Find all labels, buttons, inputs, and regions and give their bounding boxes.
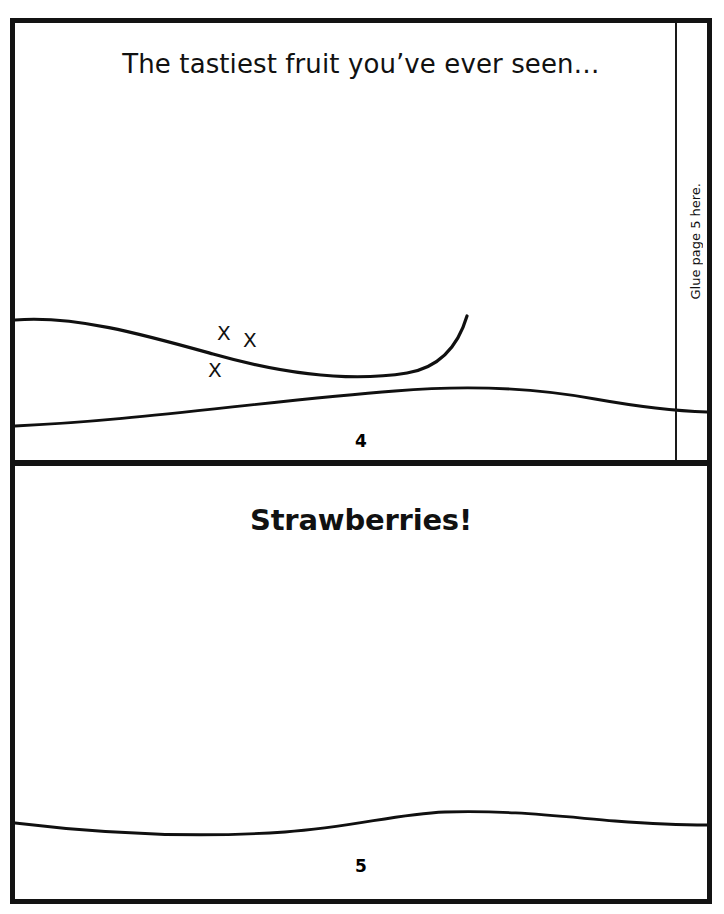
glue-instruction: Glue page 5 here. <box>679 23 707 460</box>
page-5-headline: Strawberries! <box>15 503 707 537</box>
page-number-4: 4 <box>15 431 707 451</box>
x-mark: X <box>243 330 257 350</box>
page-4-scenery-drawing <box>15 23 707 460</box>
page-4-headline: The tastiest fruit you’ve ever seen… <box>15 49 707 79</box>
glue-flap-fold-line <box>675 23 677 460</box>
x-mark: X <box>208 360 222 380</box>
clipped-header-text <box>430 0 720 7</box>
x-mark: X <box>217 323 231 343</box>
page-4-panel: The tastiest fruit you’ve ever seen… X X… <box>15 23 707 460</box>
booklet-frame: The tastiest fruit you’ve ever seen… X X… <box>10 18 712 904</box>
page-5-panel: Strawberries! 5 <box>15 466 707 899</box>
glue-instruction-label: Glue page 5 here. <box>688 183 703 300</box>
page-number-5: 5 <box>15 856 707 876</box>
